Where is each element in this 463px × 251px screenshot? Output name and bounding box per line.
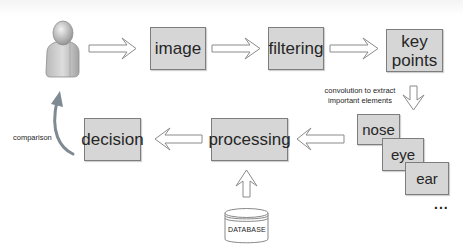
- arrow-filtering-to-keypoints: [330, 38, 378, 59]
- arrow-processing-to-decision: [155, 128, 202, 150]
- node-filtering: filtering: [268, 27, 324, 70]
- more-items-ellipsis: ...: [434, 196, 449, 212]
- comparison-curved-arrow: [51, 91, 73, 154]
- node-ear: ear: [405, 162, 449, 195]
- node-processing-label: processing: [208, 130, 290, 149]
- node-nose-label: nose: [362, 120, 395, 139]
- node-decision: decision: [84, 118, 141, 161]
- user-icon: [46, 21, 79, 77]
- convolution-annotation-line1: convolution to extract: [312, 86, 408, 96]
- arrow-nose-to-processing: [297, 128, 344, 150]
- node-key-points-label-line1: key: [401, 32, 427, 51]
- arrow-database-to-processing: [236, 170, 257, 197]
- node-processing: processing: [211, 118, 288, 161]
- node-decision-label: decision: [81, 130, 143, 149]
- node-key-points-label-line2: points: [392, 51, 437, 70]
- node-image: image: [150, 27, 206, 70]
- node-filtering-label: filtering: [269, 39, 324, 58]
- convolution-annotation: convolution to extract important element…: [312, 86, 408, 106]
- arrow-image-to-filtering: [212, 38, 260, 59]
- node-image-label: image: [155, 39, 201, 58]
- arrow-user-to-image: [89, 38, 136, 59]
- convolution-annotation-line2: important elements: [312, 96, 408, 106]
- database-label: DATABASE: [228, 226, 266, 233]
- node-ear-label: ear: [416, 169, 438, 188]
- node-key-points: key points: [386, 29, 443, 72]
- comparison-label: comparison: [13, 133, 52, 143]
